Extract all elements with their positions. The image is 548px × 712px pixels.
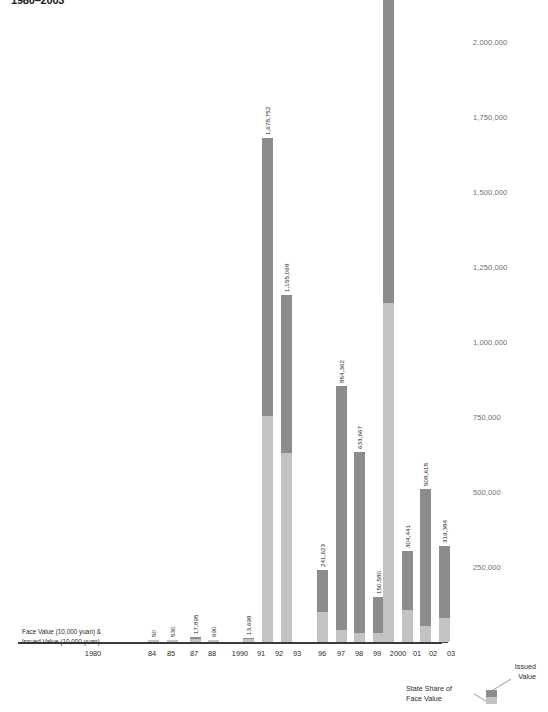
bar-93[interactable]: 1,155,068 [281,295,292,642]
bar-segment-issued-value [243,639,254,642]
bar-segment-issued-value [167,640,178,643]
x-axis-tick-label: 93 [293,649,301,658]
x-axis-tick-label: 97 [337,649,345,658]
x-axis-tick-label: 85 [167,649,175,658]
bar-value-label: 1,155,068 [283,264,290,292]
bar-85[interactable]: 530 [167,640,178,643]
bar-segment-issued-value [439,618,450,642]
bar-segment-issued-value [354,633,365,642]
x-axis-tick-label: 87 [190,649,198,658]
x-axis-tick-label: 91 [257,649,265,658]
bar-segment-issued-value [208,640,219,643]
y-axis-tick-label: 1,000,000 [473,338,507,347]
bar-value-label: 150,580 [375,571,382,594]
bar-segment-issued-value [190,639,201,642]
bar-segment-issued-value [420,626,431,642]
x-axis-tick-label: 92 [275,649,283,658]
x-axis-tick-label: 84 [148,649,156,658]
bar-87[interactable]: 17,895 [190,637,201,642]
legend-label-issued-value: Issued Value [490,662,536,683]
y-axis-tick-label: 1,500,000 [473,188,507,197]
bar-value-label: 241,623 [319,543,326,566]
bar-98[interactable]: 633,667 [354,452,365,642]
bar-97[interactable]: 854,362 [336,386,347,642]
chart-legend: Issued Value State Share of Face Value [398,662,548,712]
legend-swatch-face-value [486,690,497,697]
bar-value-label: 304,441 [404,525,411,548]
bar-segment-issued-value [281,453,292,642]
bar-01[interactable]: 304,441 [402,551,413,642]
bar-value-label: 17,895 [192,614,199,634]
x-axis-tick-label: 98 [355,649,363,658]
x-axis-tick-label: 02 [429,649,437,658]
value-axis-caption: Face Value (10,000 yuan) & Issued Value … [22,627,128,646]
y-axis-tick-label: 500,000 [473,488,501,497]
bar-02[interactable]: 508,618 [420,489,431,642]
bar-92[interactable]: 1,678,752 [262,138,273,642]
y-axis-tick-label: 1,750,000 [473,113,507,122]
bar-segment-issued-value [402,610,413,642]
y-axis-tick-label: 250,000 [473,563,501,572]
bar-segment-face-value [354,452,365,642]
y-axis-tick-label: 2,000,000 [473,38,507,47]
bar-03[interactable]: 319,384 [439,546,450,642]
bar-segment-issued-value [383,303,394,642]
bar-84[interactable]: 50 [148,640,159,643]
x-axis-tick-label: 99 [373,649,381,658]
bar-value-label: 690 [210,626,217,637]
bar-value-label: 1,678,752 [264,107,271,135]
bar-segment-issued-value [148,640,159,643]
bar-2000[interactable]: 2,242,886 [383,0,394,642]
bar-88[interactable]: 690 [208,640,219,643]
bar-value-label: 13,698 [245,615,252,635]
x-axis-tick-label: 03 [447,649,455,658]
x-axis-tick-label: 96 [318,649,326,658]
bar-segment-issued-value [262,416,273,642]
bar-segment-face-value [336,386,347,642]
bar-chart-plot-area: 2,000,0001,750,0001,500,0001,250,0001,00… [0,0,548,712]
bar-value-label: 530 [169,626,176,637]
bar-segment-issued-value [317,612,328,642]
legend-label-state-share: State Share of Face Value [406,684,472,705]
bar-value-label: 633,667 [356,426,363,449]
x-axis-tick-label: 1980 [85,649,101,658]
x-axis-tick-label: 1990 [232,649,248,658]
bar-value-label: 319,384 [441,520,448,543]
bar-91[interactable]: 13,698 [243,638,254,642]
x-axis-tick-label: 2000 [390,649,406,658]
x-axis-tick-label: 01 [413,649,421,658]
legend-swatch-issued-value [486,697,497,704]
bar-segment-issued-value [336,630,347,642]
x-axis-tick-label: 88 [208,649,216,658]
bar-value-label: 854,362 [338,360,345,383]
legend-swatch [486,690,497,704]
bar-value-label: 50 [150,629,157,636]
bar-segment-face-value [420,489,431,642]
y-axis-tick-label: 750,000 [473,413,501,422]
bar-96[interactable]: 241,623 [317,570,328,642]
bar-value-label: 508,618 [422,463,429,486]
y-axis-tick-label: 1,250,000 [473,263,507,272]
